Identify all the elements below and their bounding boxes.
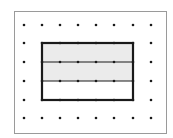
grid-dot: [113, 117, 116, 120]
grid-dot: [113, 24, 116, 27]
grid-dot: [132, 117, 135, 120]
grid-dot: [95, 24, 98, 27]
grid-dot: [132, 24, 135, 27]
grid-dot: [150, 80, 153, 83]
grid-dot: [41, 117, 44, 120]
grid-dot: [95, 117, 98, 120]
grid-dot: [150, 61, 153, 64]
dot-grid-diagram: [0, 0, 173, 138]
shaded-strip: [42, 62, 133, 81]
grid-dot: [23, 80, 26, 83]
grid-dot: [23, 42, 26, 45]
grid-dot: [23, 117, 26, 120]
grid-dot: [77, 117, 80, 120]
grid-dot: [77, 24, 80, 27]
grid-dot: [59, 24, 62, 27]
grid-dot: [150, 24, 153, 27]
grid-dot: [150, 42, 153, 45]
grid-dot: [23, 61, 26, 64]
grid-dot: [59, 117, 62, 120]
grid-dot: [41, 24, 44, 27]
shaded-strip: [42, 43, 133, 62]
grid-dot: [23, 99, 26, 102]
grid-dot: [150, 117, 153, 120]
grid-dot: [23, 24, 26, 27]
grid-dot: [150, 99, 153, 102]
